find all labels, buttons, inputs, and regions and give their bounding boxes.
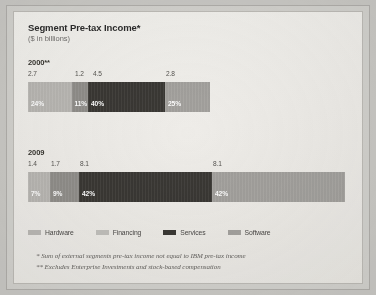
bar-segment-2000-services: 40% bbox=[88, 82, 165, 112]
value-label-2000-software: 2.8 bbox=[166, 70, 175, 77]
segment-percent-2000-software: 25% bbox=[168, 100, 181, 107]
segment-percent-2009-software: 42% bbox=[215, 190, 228, 197]
legend-label-hardware: Hardware bbox=[45, 229, 74, 236]
segment-percent-2009-services: 42% bbox=[82, 190, 95, 197]
chart-subtitle: ($ in billions) bbox=[28, 34, 70, 43]
value-label-2009-hardware: 1.4 bbox=[28, 160, 37, 167]
legend-swatch-hardware bbox=[28, 230, 41, 235]
chart-title: Segment Pre-tax Income* bbox=[28, 22, 140, 33]
chart-legend: Hardware Financing Services Software bbox=[28, 229, 293, 236]
legend-label-services: Services bbox=[180, 229, 205, 236]
legend-swatch-services bbox=[163, 230, 176, 235]
value-label-2000-financing: 1.2 bbox=[75, 70, 84, 77]
segment-percent-2000-services: 40% bbox=[91, 100, 104, 107]
legend-swatch-financing bbox=[96, 230, 109, 235]
legend-label-financing: Financing bbox=[113, 229, 142, 236]
legend-item-software: Software bbox=[228, 229, 271, 236]
segment-percent-2000-financing: 11% bbox=[75, 100, 88, 107]
value-label-2009-software: 8.1 bbox=[213, 160, 222, 167]
value-label-2009-services: 8.1 bbox=[80, 160, 89, 167]
value-label-2009-financing: 1.7 bbox=[51, 160, 60, 167]
footnote-one: * Sum of external segments pre-tax incom… bbox=[36, 251, 346, 262]
segment-percent-2009-financing: 9% bbox=[53, 190, 62, 197]
chart-footnotes: * Sum of external segments pre-tax incom… bbox=[36, 251, 346, 272]
legend-item-hardware: Hardware bbox=[28, 229, 74, 236]
bar-segment-2000-software: 25% bbox=[165, 82, 210, 112]
legend-item-financing: Financing bbox=[96, 229, 142, 236]
legend-item-services: Services bbox=[163, 229, 205, 236]
bar-segment-2000-financing: 11% bbox=[72, 82, 89, 112]
bar-segment-2009-hardware: 7% bbox=[28, 172, 50, 202]
value-label-2000-hardware: 2.7 bbox=[28, 70, 37, 77]
legend-swatch-software bbox=[228, 230, 241, 235]
bar-segment-2009-financing: 9% bbox=[50, 172, 79, 202]
stacked-bar-2000: 24% 11% 40% 25% bbox=[28, 82, 210, 112]
stacked-bar-2009: 7% 9% 42% 42% bbox=[28, 172, 345, 202]
chart-sheet: Segment Pre-tax Income* ($ in billions) … bbox=[14, 12, 362, 283]
legend-label-software: Software bbox=[245, 229, 271, 236]
group-label-2000: 2000** bbox=[28, 58, 50, 67]
chart-page: Segment Pre-tax Income* ($ in billions) … bbox=[0, 0, 376, 295]
segment-percent-2009-hardware: 7% bbox=[31, 190, 40, 197]
bar-segment-2009-services: 42% bbox=[79, 172, 212, 202]
bar-segment-2000-hardware: 24% bbox=[28, 82, 72, 112]
value-labels-2000: 2.7 1.2 4.5 2.8 bbox=[14, 70, 362, 81]
footnote-two: ** Excludes Enterprise Investments and s… bbox=[36, 262, 346, 273]
bar-segment-2009-software: 42% bbox=[212, 172, 345, 202]
group-label-2009: 2009 bbox=[28, 148, 44, 157]
value-labels-2009: 1.4 1.7 8.1 8.1 bbox=[14, 160, 362, 171]
value-label-2000-services: 4.5 bbox=[93, 70, 102, 77]
segment-percent-2000-hardware: 24% bbox=[31, 100, 44, 107]
